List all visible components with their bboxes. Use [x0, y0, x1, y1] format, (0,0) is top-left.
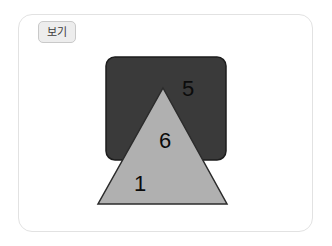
view-label-tab: 보기 [38, 21, 76, 43]
region-number-overlap: 6 [152, 130, 178, 152]
view-label-text: 보기 [47, 27, 67, 38]
region-number-triangle: 1 [127, 173, 153, 195]
region-number-rectangle: 5 [175, 78, 201, 100]
figure-stage: 5 6 1 보기 [0, 0, 332, 246]
